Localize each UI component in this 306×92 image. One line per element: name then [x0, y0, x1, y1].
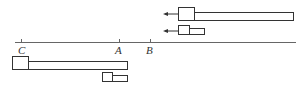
lower-small-body	[103, 73, 128, 82]
long-bar	[195, 13, 294, 21]
label-c: C	[18, 44, 26, 56]
upper-large-body	[163, 8, 294, 21]
long-bar	[29, 62, 128, 70]
upper-small-body	[163, 26, 205, 35]
box-block	[103, 73, 113, 82]
arrowhead-icon	[163, 12, 168, 16]
box-block	[13, 57, 29, 70]
arrowhead-icon	[163, 29, 168, 33]
label-b: B	[146, 44, 153, 56]
position-axis: C A B	[15, 39, 296, 56]
box-block	[179, 26, 190, 35]
lower-large-body	[13, 57, 128, 70]
diagram-canvas: C A B	[0, 0, 306, 92]
box-block	[179, 8, 195, 21]
short-bar	[113, 76, 128, 82]
short-bar	[190, 29, 205, 35]
label-a: A	[114, 44, 122, 56]
